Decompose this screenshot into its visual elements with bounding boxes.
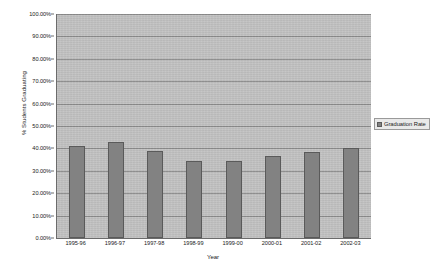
bar[interactable]: [343, 148, 359, 238]
y-axis-tick-mark: [51, 58, 54, 59]
y-axis-tick-label: 0.00%: [35, 235, 51, 241]
bar[interactable]: [304, 152, 320, 238]
graduation-rate-bar-chart: % Students Graduating 100.00%90.00%80.00…: [0, 0, 446, 273]
y-axis-tick-mark: [51, 14, 54, 15]
y-axis-tick-mark: [51, 193, 54, 194]
legend-item-label: Graduation Rate: [384, 121, 426, 127]
bar[interactable]: [186, 161, 202, 238]
bar-slot: [96, 14, 135, 238]
y-axis-tick-label: 90.00%: [32, 33, 51, 39]
x-axis-tick-label: 2000-01: [252, 240, 291, 246]
y-axis-tick-mark: [51, 215, 54, 216]
y-axis-tick-label: 10.00%: [32, 213, 51, 219]
y-axis-tick-label: 20.00%: [32, 190, 51, 196]
y-axis-tick-mark: [51, 103, 54, 104]
x-axis-tick-label: 2002-03: [331, 240, 370, 246]
bar[interactable]: [147, 151, 163, 238]
y-axis-tick-mark: [51, 170, 54, 171]
y-axis-tick-mark: [51, 126, 54, 127]
x-axis-tick-label: 1996-97: [95, 240, 134, 246]
bar-slot: [253, 14, 292, 238]
bar-slot: [57, 14, 96, 238]
x-axis-tick-labels: 1995-961996-971997-981998-991999-002000-…: [56, 240, 370, 246]
x-axis-tick-label: 1998-99: [174, 240, 213, 246]
y-axis-tick-mark: [51, 148, 54, 149]
bar-slot: [175, 14, 214, 238]
x-axis-title: Year: [56, 254, 370, 260]
bars-layer: [57, 14, 371, 238]
y-axis-tick-mark: [51, 36, 54, 37]
bar[interactable]: [265, 156, 281, 238]
bar-slot: [293, 14, 332, 238]
y-axis-tick-label: 100.00%: [29, 11, 51, 17]
x-axis-tick-label: 1995-96: [56, 240, 95, 246]
x-axis-tick-label: 1999-00: [213, 240, 252, 246]
y-axis-tick-label: 50.00%: [32, 123, 51, 129]
bar-slot: [136, 14, 175, 238]
bar-slot: [214, 14, 253, 238]
y-axis-tick-label: 30.00%: [32, 168, 51, 174]
y-axis-tick-label: 70.00%: [32, 78, 51, 84]
y-axis-tick-mark: [51, 238, 54, 239]
chart-legend: Graduation Rate: [374, 118, 430, 130]
y-axis-tick-label: 80.00%: [32, 56, 51, 62]
bar[interactable]: [108, 142, 124, 238]
plot-area: [56, 14, 371, 239]
y-axis-tick-mark: [51, 81, 54, 82]
bar[interactable]: [69, 146, 85, 238]
legend-swatch-icon: [377, 122, 382, 127]
y-axis-tick-label: 40.00%: [32, 145, 51, 151]
x-axis-tick-label: 1997-98: [135, 240, 174, 246]
y-axis-tick-label: 60.00%: [32, 101, 51, 107]
bar-slot: [332, 14, 371, 238]
bar[interactable]: [226, 161, 242, 238]
y-axis-tick-labels: 100.00%90.00%80.00%70.00%60.00%50.00%40.…: [14, 14, 54, 238]
x-axis-tick-label: 2001-02: [292, 240, 331, 246]
